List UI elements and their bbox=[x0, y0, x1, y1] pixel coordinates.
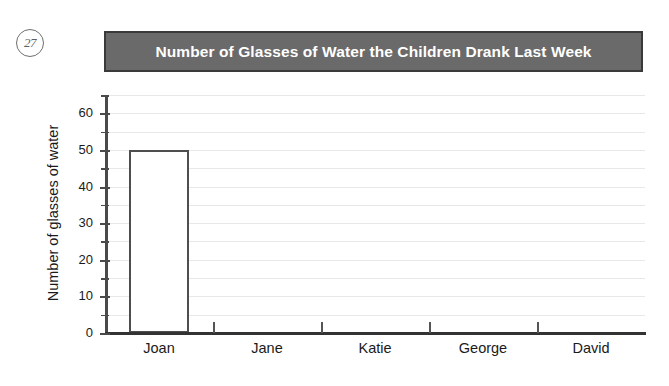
x-axis-tick-label: Joan bbox=[104, 340, 214, 356]
y-axis-tick-minor bbox=[101, 315, 109, 317]
bar-chart: Number of glasses of water 0102030405060… bbox=[0, 0, 669, 386]
y-axis-tick-major bbox=[100, 223, 110, 225]
bar bbox=[129, 150, 189, 333]
y-axis-tick-label: 20 bbox=[53, 252, 93, 267]
y-axis-tick-label: 40 bbox=[53, 179, 93, 194]
y-axis-tick-major bbox=[100, 296, 110, 298]
y-axis-tick-major bbox=[100, 333, 110, 335]
x-axis-tick bbox=[537, 322, 539, 333]
y-axis-tick-label: 10 bbox=[53, 288, 93, 303]
x-axis-tick bbox=[213, 322, 215, 333]
y-axis-tick-minor bbox=[101, 278, 109, 280]
x-axis-tick-label: Jane bbox=[212, 340, 322, 356]
y-axis-tick-minor bbox=[101, 241, 109, 243]
x-axis-tick-label: David bbox=[536, 340, 646, 356]
x-axis-tick-label: Katie bbox=[320, 340, 430, 356]
x-axis-tick bbox=[429, 322, 431, 333]
y-axis-tick-label: 60 bbox=[53, 105, 93, 120]
gridline bbox=[105, 113, 645, 114]
y-axis-tick-major bbox=[100, 150, 110, 152]
x-axis-tick-label: George bbox=[428, 340, 538, 356]
y-axis-tick-label: 30 bbox=[53, 215, 93, 230]
y-axis-tick-label: 0 bbox=[53, 325, 93, 340]
gridline bbox=[105, 95, 645, 96]
y-axis-tick-major bbox=[100, 187, 110, 189]
y-axis-tick-label: 50 bbox=[53, 142, 93, 157]
gridline bbox=[105, 132, 645, 133]
y-axis-tick-minor bbox=[101, 95, 109, 97]
y-axis-tick-minor bbox=[101, 168, 109, 170]
x-axis-line bbox=[105, 332, 646, 335]
y-axis-tick-major bbox=[100, 260, 110, 262]
y-axis-tick-minor bbox=[101, 205, 109, 207]
y-axis-tick-minor bbox=[101, 132, 109, 134]
y-axis-tick-major bbox=[100, 113, 110, 115]
x-axis-tick bbox=[321, 322, 323, 333]
plot-area bbox=[105, 95, 645, 333]
